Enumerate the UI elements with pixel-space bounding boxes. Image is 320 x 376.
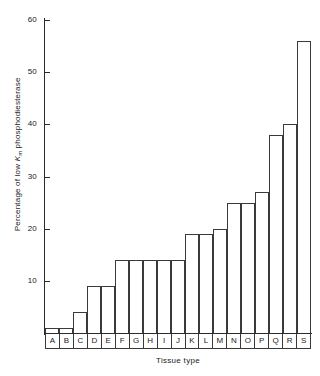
y-axis-title-symbol: K	[13, 156, 22, 162]
bar	[115, 260, 129, 333]
y-axis-title-subscript: m	[17, 151, 23, 156]
bar-column	[59, 20, 73, 333]
x-axis-category-label: E	[102, 334, 116, 349]
bar-column	[297, 20, 311, 333]
chart-figure: 102030405060 Percentage of low Km phosph…	[0, 0, 320, 376]
bar-column	[115, 20, 129, 333]
bar	[255, 192, 269, 333]
x-axis-title: Tissue type	[45, 356, 311, 365]
x-axis-category-label: L	[199, 334, 213, 349]
bar-column	[269, 20, 283, 333]
y-axis-title-suffix: phosphodiesterase	[13, 77, 22, 150]
bar-column	[73, 20, 87, 333]
x-axis-category-label: O	[241, 334, 255, 349]
bar-column	[227, 20, 241, 333]
x-axis-category-label: N	[227, 334, 241, 349]
bar-column	[101, 20, 115, 333]
x-axis-category-label: H	[144, 334, 158, 349]
bar	[73, 312, 87, 333]
x-axis-category-label: F	[116, 334, 130, 349]
bar	[199, 234, 213, 333]
x-axis-category-label: M	[213, 334, 227, 349]
x-axis-category-label: G	[130, 334, 144, 349]
bar	[157, 260, 171, 333]
bar	[297, 41, 311, 333]
bar-column	[45, 20, 59, 333]
bar	[213, 229, 227, 333]
bar	[143, 260, 157, 333]
x-axis-category-label: A	[45, 334, 60, 349]
bar-column	[129, 20, 143, 333]
x-axis-category-label: P	[255, 334, 269, 349]
bar-column	[87, 20, 101, 333]
bar	[283, 124, 297, 333]
y-axis-tick-label: 10	[7, 277, 37, 285]
x-axis-category-cells: ABCDEFGHIJKLMNOPQRS	[45, 334, 311, 349]
bar	[87, 286, 101, 333]
bar-column	[199, 20, 213, 333]
bar-column	[255, 20, 269, 333]
bar	[269, 135, 283, 333]
x-axis-category-label: I	[158, 334, 172, 349]
bar-column	[213, 20, 227, 333]
bar	[129, 260, 143, 333]
bar-column	[241, 20, 255, 333]
x-axis-category-label: C	[74, 334, 88, 349]
x-axis-category-label: S	[297, 334, 311, 349]
bar	[101, 286, 115, 333]
bar-column	[171, 20, 185, 333]
y-axis-tick-label: 60	[7, 16, 37, 24]
bar	[241, 203, 255, 333]
x-axis-category-label: K	[186, 334, 200, 349]
bar-column	[143, 20, 157, 333]
bar	[227, 203, 241, 333]
bar-series	[45, 20, 311, 333]
x-axis-category-label: J	[172, 334, 186, 349]
bar	[45, 328, 59, 333]
y-axis-title-prefix: Percentage of low	[13, 161, 22, 231]
bar-column	[157, 20, 171, 333]
x-axis-category-label: R	[283, 334, 297, 349]
bar-column	[283, 20, 297, 333]
bar-column	[185, 20, 199, 333]
bar	[59, 328, 73, 333]
bar	[185, 234, 199, 333]
x-axis-category-label: Q	[269, 334, 283, 349]
bar	[171, 260, 185, 333]
x-axis-category-label: B	[60, 334, 74, 349]
x-axis-category-label: D	[88, 334, 102, 349]
y-axis-title: Percentage of low Km phosphodiesterase	[13, 39, 26, 269]
